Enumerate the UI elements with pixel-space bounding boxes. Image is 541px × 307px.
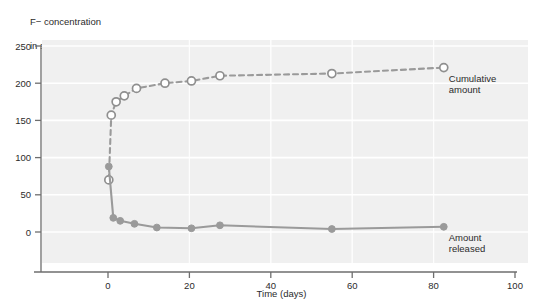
y-axis-tick-label-100: 100 (15, 152, 31, 163)
y-axis-tick-label-50: 50 (20, 189, 31, 200)
chart-figure: F− concentration in solution (ppm) 05010… (0, 0, 541, 307)
chart-canvas: 050100150200250020406080100Cumulativeamo… (0, 0, 541, 307)
y-axis-tick-label-250: 250 (15, 41, 31, 52)
annotation-cumulative-line2: amount (449, 84, 481, 95)
y-axis-tick-label-150: 150 (15, 115, 31, 126)
data-point-cumulative-3[interactable] (120, 92, 128, 100)
annotation-released: Amount (449, 232, 482, 243)
data-point-released-3[interactable] (131, 220, 138, 227)
x-axis-title: Time (days) (257, 288, 307, 299)
annotation-cumulative: Cumulative (449, 73, 497, 84)
data-point-released-2[interactable] (117, 217, 124, 224)
data-point-released-5[interactable] (188, 225, 195, 232)
annotation-released-line2: released (449, 243, 485, 254)
data-point-released-6[interactable] (217, 222, 224, 229)
x-axis-title-wrap: Time (days) (0, 288, 541, 299)
data-point-cumulative-1[interactable] (107, 111, 115, 119)
data-point-cumulative-9[interactable] (440, 64, 448, 72)
data-point-cumulative-4[interactable] (132, 84, 140, 92)
data-point-released-8[interactable] (440, 223, 447, 230)
data-point-cumulative-2[interactable] (112, 98, 120, 106)
data-point-released-0[interactable] (105, 163, 112, 170)
data-point-cumulative-7[interactable] (216, 72, 224, 80)
data-point-cumulative-8[interactable] (328, 70, 336, 78)
data-point-released-1[interactable] (110, 214, 117, 221)
y-axis-tick-label-0: 0 (26, 227, 31, 238)
data-point-released-7[interactable] (328, 226, 335, 233)
data-point-cumulative-6[interactable] (187, 77, 195, 85)
data-point-cumulative-5[interactable] (161, 79, 169, 87)
y-axis-tick-label-200: 200 (15, 78, 31, 89)
data-point-released-4[interactable] (153, 224, 160, 231)
